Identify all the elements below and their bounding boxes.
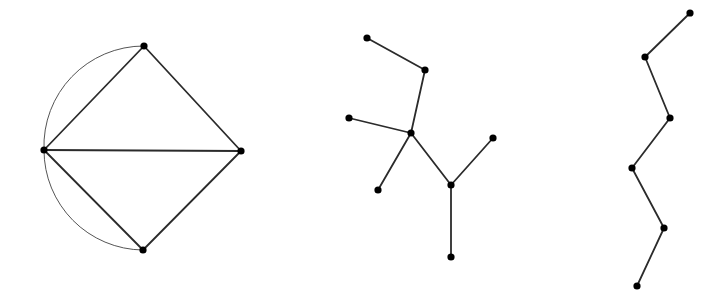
edge [349, 118, 411, 133]
edge [632, 168, 664, 228]
node-h [447, 253, 454, 260]
edge [645, 13, 690, 57]
edge [44, 46, 144, 150]
edge [645, 57, 670, 118]
node-d [345, 114, 352, 121]
edge [44, 150, 143, 250]
node-e [374, 186, 381, 193]
node-a [363, 34, 370, 41]
node-f [447, 181, 454, 188]
node-p1 [686, 9, 693, 16]
edge [637, 228, 664, 286]
edge [411, 70, 425, 133]
node-p5 [660, 224, 667, 231]
node-top [140, 42, 147, 49]
node-p4 [628, 164, 635, 171]
graph-diagram-canvas [0, 0, 719, 295]
node-g [489, 134, 496, 141]
node-right [237, 147, 244, 154]
edge [451, 138, 493, 185]
edge [44, 150, 241, 151]
node-p6 [633, 282, 640, 289]
edge [367, 38, 425, 70]
edge [632, 118, 670, 168]
node-p2 [641, 53, 648, 60]
node-left [40, 146, 47, 153]
graph-path [628, 9, 693, 289]
edge [411, 133, 451, 185]
node-c [407, 129, 414, 136]
edge [378, 133, 411, 190]
node-p3 [666, 114, 673, 121]
edge [143, 151, 241, 250]
edge [144, 46, 241, 151]
graph-multigraph-diamond [40, 42, 244, 253]
node-b [421, 66, 428, 73]
graph-tree [345, 34, 496, 260]
node-bottom [139, 246, 146, 253]
